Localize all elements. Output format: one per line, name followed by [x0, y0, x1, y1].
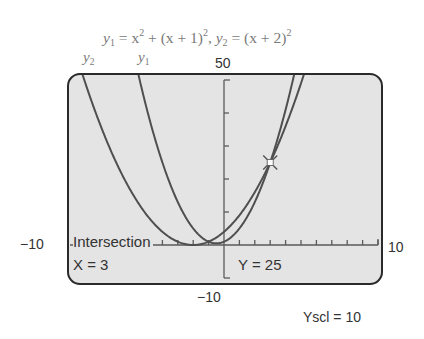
intersection-label: Intersection: [73, 233, 153, 250]
graph-screen: [0, 0, 424, 339]
y-readout: Y = 25: [238, 256, 282, 273]
x-readout: X = 3: [73, 256, 108, 273]
